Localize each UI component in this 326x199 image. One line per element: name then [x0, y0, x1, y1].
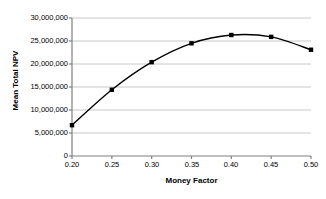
axis-ticks — [69, 18, 311, 159]
x-axis-title: Money Factor — [72, 176, 311, 185]
gridlines — [72, 18, 311, 133]
data-point-marker — [110, 88, 114, 92]
x-tick-label: 0.25 — [95, 160, 129, 169]
x-tick-label: 0.30 — [135, 160, 169, 169]
data-point-marker — [309, 48, 313, 52]
data-point-marker — [189, 41, 193, 45]
data-series-line — [72, 34, 311, 125]
data-point-marker — [70, 123, 74, 127]
data-point-markers — [70, 33, 313, 128]
data-point-marker — [229, 33, 233, 37]
x-tick-label: 0.35 — [175, 160, 209, 169]
data-point-marker — [269, 35, 273, 39]
data-point-marker — [149, 60, 153, 64]
x-tick-label: 0.45 — [254, 160, 288, 169]
plot-area — [0, 0, 326, 199]
x-tick-label: 0.50 — [294, 160, 326, 169]
x-tick-label: 0.20 — [55, 160, 89, 169]
chart-container: Mean Total NPV 30,000,000 25,000,000 20,… — [0, 0, 326, 199]
x-tick-label: 0.40 — [214, 160, 248, 169]
